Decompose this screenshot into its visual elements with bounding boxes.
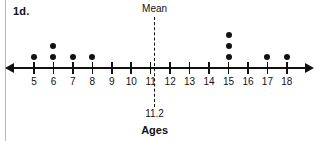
mean-value-label: 11.2 xyxy=(125,108,185,119)
data-point-dot xyxy=(226,32,232,38)
axis-arrow-right-icon xyxy=(305,63,314,73)
axis-tick xyxy=(33,62,35,74)
axis-tick xyxy=(72,62,74,74)
dot-plot-canvas: 56789101112131415161718Mean11.2Ages xyxy=(0,0,319,141)
axis-arrow-left-icon xyxy=(5,63,14,73)
axis-tick-label: 18 xyxy=(275,76,299,87)
data-point-dot xyxy=(70,54,76,60)
dot-plot-figure: 1d. 56789101112131415161718Mean11.2Ages xyxy=(0,0,319,141)
axis-tick xyxy=(189,62,191,74)
data-point-dot xyxy=(226,43,232,49)
axis-tick xyxy=(247,62,249,74)
axis-tick xyxy=(92,62,94,74)
data-point-dot xyxy=(31,54,37,60)
axis-tick xyxy=(286,62,288,74)
mean-label: Mean xyxy=(125,3,185,14)
mean-dashed-line xyxy=(154,17,155,107)
axis-tick xyxy=(130,62,132,74)
x-axis-title: Ages xyxy=(110,124,200,136)
data-point-dot xyxy=(89,54,95,60)
number-line-axis xyxy=(14,67,305,69)
axis-tick xyxy=(111,62,113,74)
data-point-dot xyxy=(50,43,56,49)
data-point-dot xyxy=(264,54,270,60)
axis-tick xyxy=(228,62,230,74)
axis-tick xyxy=(53,62,55,74)
axis-tick xyxy=(267,62,269,74)
axis-tick xyxy=(169,62,171,74)
axis-tick xyxy=(208,62,210,74)
axis-tick xyxy=(150,62,152,74)
data-point-dot xyxy=(226,54,232,60)
data-point-dot xyxy=(284,54,290,60)
data-point-dot xyxy=(50,54,56,60)
